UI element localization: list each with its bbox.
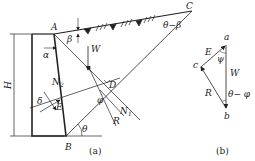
point-c-label: C [186,1,193,11]
figure-a: H [3,1,193,156]
beta-label: β [66,34,72,44]
psi-label: ψ [217,54,225,64]
reaction-r-label: R [112,116,120,126]
vertex-b-label: b [224,111,230,121]
height-label: H [3,81,13,90]
weight-w-label: W [91,44,101,54]
side-w-label: W [230,68,240,78]
side-r-label: R [204,88,212,98]
delta-label: δ [37,96,42,106]
n2-label: N2 [51,77,64,88]
side-e-label: E [204,47,212,57]
caption-b: (b) [216,146,229,156]
figure-b: a b c E W R ψ θ− φ (b) [193,32,251,156]
point-b-label: B [64,142,72,152]
alpha-label: α [43,50,49,60]
phi-label: φ [97,95,104,105]
theta-minus-phi-label: θ− φ [228,89,251,99]
n1-label: N1 [119,106,132,117]
soil-hatching [84,15,155,34]
theta-minus-beta-label: θ−β [163,20,181,30]
vertex-c-label: c [193,60,198,70]
earth-pressure-e-label: E [55,102,63,112]
retaining-wall-diagram: H [0,0,255,161]
theta-label: θ [82,124,88,134]
vertex-a-label: a [224,32,229,42]
caption-a: (a) [89,146,101,156]
point-a-label: A [50,22,58,32]
point-d-label: D [108,80,116,90]
